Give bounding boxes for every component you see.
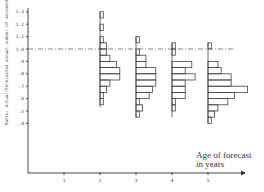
- y-tick-label: .8: [19, 71, 25, 76]
- histogram-bin: [172, 49, 175, 55]
- y-tick-label: 1.1: [16, 34, 24, 39]
- histograms: [100, 12, 248, 124]
- histogram-bin: [172, 99, 175, 105]
- histogram-bin: [100, 24, 103, 30]
- histogram-bin: [172, 86, 185, 92]
- histogram-bin: [100, 61, 117, 67]
- histogram-bin: [208, 80, 231, 86]
- histogram-bin: [208, 74, 231, 80]
- x-tick-label: 5: [207, 178, 210, 183]
- y-ticks: 1.31.21.11.0.9.8.7.6.5.4: [16, 9, 28, 126]
- histogram-bin: [208, 61, 218, 67]
- x-tick-label: 1: [63, 178, 66, 183]
- histogram-age-5: [208, 43, 248, 124]
- histogram-bin: [100, 43, 107, 49]
- y-tick-label: 1.3: [16, 9, 24, 14]
- histogram-bin: [208, 117, 211, 123]
- x-ticks: 12345: [63, 172, 210, 183]
- histogram-bin: [100, 92, 103, 98]
- y-tick-label: .7: [19, 84, 25, 89]
- histogram-bin: [208, 92, 234, 98]
- histogram-bin: [172, 68, 185, 74]
- histogram-age-2: [100, 12, 120, 107]
- histogram-bin: [100, 80, 110, 86]
- histogram-bin: [208, 111, 215, 117]
- histogram-bin: [172, 74, 195, 80]
- histogram-bin: [136, 49, 139, 55]
- y-tick-label: .4: [19, 121, 25, 126]
- histogram-bin: [100, 49, 107, 55]
- x-axis-label-line2: in years: [196, 159, 225, 169]
- y-tick-label: 1.2: [16, 22, 24, 27]
- histogram-bin: [100, 74, 120, 80]
- histogram-bin: [208, 43, 211, 49]
- histogram-bin: [208, 105, 218, 111]
- histogram-bin: [136, 99, 139, 105]
- histogram-bin: [208, 86, 248, 92]
- x-tick-label: 2: [99, 178, 102, 183]
- histogram-bin: [136, 37, 139, 43]
- x-tick-label: 3: [135, 178, 138, 183]
- histogram-bin: [208, 99, 228, 105]
- histogram-bin: [100, 68, 120, 74]
- histogram-bin: [208, 68, 221, 74]
- histogram-bin: [136, 68, 156, 74]
- histogram-bin: [136, 111, 139, 117]
- histogram-bin: [172, 92, 185, 98]
- x-axis-arrow-icon: [241, 171, 245, 175]
- histogram-bin: [100, 12, 103, 18]
- histogram-bin: [136, 86, 153, 92]
- y-tick-label: .6: [19, 96, 25, 101]
- histogram-age-4: [172, 43, 195, 117]
- histogram-bin: [100, 37, 103, 43]
- histogram-bin: [172, 43, 175, 49]
- histogram-bin: [100, 86, 107, 92]
- y-tick-label: 1.0: [16, 47, 24, 52]
- x-tick-label: 4: [171, 178, 174, 183]
- histogram-bin: [172, 105, 175, 111]
- histogram-bin: [172, 80, 185, 86]
- histogram-bin: [172, 61, 192, 67]
- histogram-bin: [100, 55, 110, 61]
- histogram-bin: [136, 74, 156, 80]
- histogram-bin: [100, 99, 103, 105]
- y-tick-label: .9: [19, 59, 25, 64]
- histogram-chart: Ratio: Actual/Forecasted annual number o…: [0, 0, 264, 192]
- histogram-bin: [136, 80, 156, 86]
- histogram-bin: [136, 105, 143, 111]
- histogram-bin: [136, 92, 149, 98]
- y-tick-label: .5: [19, 109, 25, 114]
- y-axis-label: Ratio: Actual/Forecasted annual number o…: [4, 0, 9, 125]
- histogram-bin: [136, 55, 146, 61]
- histogram-bin: [136, 61, 146, 67]
